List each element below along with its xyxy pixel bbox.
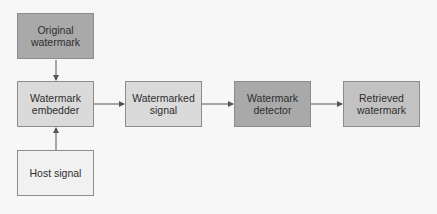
node-watermark-embedder: Watermark embedder — [17, 81, 94, 127]
node-retrieved-watermark: Retrieved watermark — [343, 81, 420, 127]
node-watermark-detector: Watermark detector — [234, 81, 311, 127]
node-host-signal: Host signal — [17, 150, 94, 196]
node-original-watermark: Original watermark — [17, 13, 94, 59]
node-watermarked-signal: Watermarked signal — [125, 81, 202, 127]
